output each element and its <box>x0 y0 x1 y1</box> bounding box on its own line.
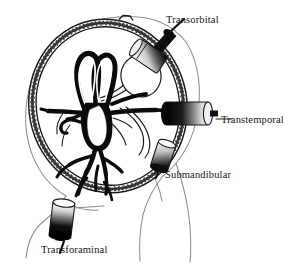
label-transtemporal: Transtemporal <box>221 114 284 126</box>
figure-artwork <box>0 0 298 264</box>
transcranial-doppler-figure: Transorbital Transtemporal Submandibular… <box>0 0 298 264</box>
label-transorbital: Transorbital <box>166 14 219 26</box>
transtemporal-probe[interactable] <box>161 102 218 125</box>
leader-transforaminal <box>74 206 104 208</box>
label-submandibular: Submandibular <box>165 169 231 181</box>
label-transforaminal: Transforaminal <box>41 244 107 256</box>
